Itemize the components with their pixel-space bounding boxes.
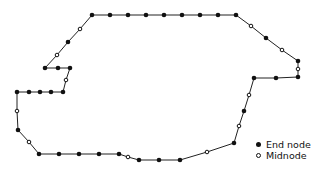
midnode [280, 48, 284, 52]
midnode [205, 150, 209, 154]
end-node [274, 76, 279, 81]
end-node [38, 90, 43, 95]
end-node [198, 13, 203, 18]
legend-label-end-node: End node [266, 139, 311, 150]
end-node [61, 90, 66, 95]
end-node [178, 158, 183, 163]
end-node [49, 90, 54, 95]
end-node [56, 66, 61, 71]
end-node [242, 109, 247, 114]
legend-item-end-node: End node [252, 139, 311, 150]
end-node [37, 152, 42, 157]
end-node [57, 152, 62, 157]
end-node [252, 76, 257, 81]
end-node [16, 128, 21, 133]
end-node [43, 66, 48, 71]
end-node [296, 59, 301, 64]
end-node [27, 90, 32, 95]
midnode-icon [252, 150, 266, 161]
end-node [15, 90, 20, 95]
end-node [90, 13, 95, 18]
end-node [180, 13, 185, 18]
end-node [97, 152, 102, 157]
midnode [15, 109, 19, 113]
end-node [137, 158, 142, 163]
midnode [27, 140, 31, 144]
end-node [77, 152, 82, 157]
midnode [78, 27, 82, 31]
end-node [117, 152, 122, 157]
end-node-icon [252, 139, 266, 150]
legend-label-midnode: Midnode [266, 150, 307, 161]
legend-item-midnode: Midnode [252, 150, 311, 161]
end-node [144, 13, 149, 18]
end-node [234, 13, 239, 18]
end-node [296, 75, 301, 80]
legend: End node Midnode [252, 139, 311, 161]
end-node [66, 40, 71, 45]
midnode [247, 93, 251, 97]
end-node [264, 36, 269, 41]
midnode [55, 53, 59, 57]
end-node [68, 66, 73, 71]
end-node [162, 13, 167, 18]
end-node [126, 13, 131, 18]
end-node [157, 158, 162, 163]
end-node [232, 141, 237, 146]
midnode [64, 78, 68, 82]
midnode [237, 124, 241, 128]
midnode [126, 155, 130, 159]
mesh-diagram: End node Midnode [0, 0, 322, 174]
midnode [249, 24, 253, 28]
end-node [108, 13, 113, 18]
midnode [296, 67, 300, 71]
end-node [216, 13, 221, 18]
